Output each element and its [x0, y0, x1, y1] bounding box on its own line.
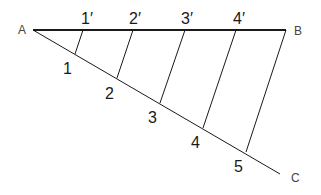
ray-ac	[33, 30, 280, 174]
ac-division-label-3: 3	[148, 109, 157, 126]
ac-division-label-5: 5	[234, 158, 243, 175]
parallel-line-4	[203, 30, 236, 128]
parallel-line-2	[117, 30, 133, 78]
ab-division-label-1: 1′	[81, 10, 93, 27]
ab-division-label-4: 4′	[233, 10, 245, 27]
ac-division-label-4: 4	[191, 134, 200, 151]
point-label-b: B	[294, 24, 302, 38]
division-diagram: A B C 1′ 2′ 3′ 4′ 1 2 3 4 5	[0, 0, 321, 195]
parallel-line-3	[160, 30, 185, 103]
parallel-line-1	[75, 30, 83, 54]
point-label-c: C	[291, 171, 300, 185]
parallel-line-5	[246, 30, 286, 152]
ac-division-label-2: 2	[105, 85, 114, 102]
ac-division-label-1: 1	[63, 60, 72, 77]
ab-division-label-2: 2′	[129, 10, 141, 27]
point-label-a: A	[18, 23, 26, 37]
ab-division-label-3: 3′	[181, 10, 193, 27]
